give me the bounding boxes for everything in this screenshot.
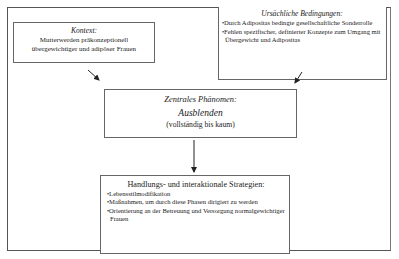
arrow-causal-to-central-icon [295, 72, 302, 83]
arrow-context-to-central-icon [88, 70, 99, 80]
arrows-layer [0, 0, 399, 259]
